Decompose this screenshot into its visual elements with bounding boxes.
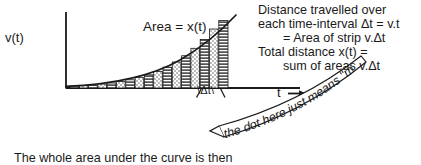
area-annotation-label: Area = x(t): [143, 20, 206, 34]
note-line-5: sum of areas v.Δt: [283, 60, 380, 73]
strip: [107, 83, 116, 88]
strip: [182, 56, 191, 88]
note-line-3: = Area of strip v.Δt: [283, 32, 385, 45]
strip: [163, 67, 172, 88]
t-axis-arrow-icon: [288, 90, 306, 96]
callout-pointer-bracket: [210, 126, 224, 137]
figure-caption: The whole area under the curve is then: [14, 152, 232, 165]
strip: [135, 78, 144, 88]
x-axis-label: t: [277, 86, 281, 99]
strip: [191, 48, 200, 88]
strip: [126, 80, 135, 88]
strip: [144, 75, 153, 88]
note-line-2: each time-interval Δt = v.t: [258, 18, 400, 31]
note-line-4: Total distance x(t) =: [258, 46, 368, 59]
y-axis-label: v(t): [5, 31, 24, 44]
velocity-time-integral-figure: the dot here just means "multiplied by" …: [0, 0, 421, 165]
strip: [98, 84, 107, 88]
note-line-1: Distance travelled over: [258, 4, 386, 17]
strip: [117, 82, 126, 88]
strip: [172, 62, 181, 88]
strip: [154, 71, 163, 88]
delta-t-label: \Δt\: [197, 85, 214, 96]
